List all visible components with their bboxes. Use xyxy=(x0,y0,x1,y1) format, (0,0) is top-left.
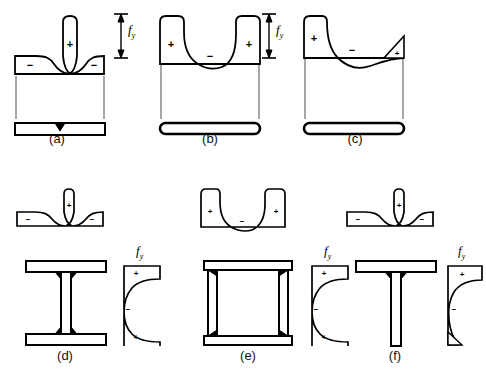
panel-e-caption: (e) xyxy=(223,348,273,363)
panel-b-stress-curve: + + − xyxy=(160,16,260,69)
panel-a-fy-label: fy xyxy=(128,22,135,40)
panel-e-web-sign-plus-bottom: + xyxy=(322,333,327,342)
panel-d-fy-label: fy xyxy=(136,243,143,261)
panel-f-flange-sign-plus: + xyxy=(397,201,402,210)
panel-f-fy-label: fy xyxy=(458,243,465,261)
panel-d-flange-sign-plus: + xyxy=(67,201,72,210)
panel-a-caption: (a) xyxy=(32,131,82,146)
panel-b-sign-plus-left: + xyxy=(168,38,174,50)
panel-a-sign-plus: + xyxy=(67,38,73,50)
panel-b-sign-minus: − xyxy=(207,50,213,62)
panel-d-web-sign-plus-top: + xyxy=(134,269,139,278)
panel-f-stem-stress-curve: + − xyxy=(440,262,486,350)
panel-d-flange-sign-minus-left: − xyxy=(26,215,31,224)
panel-c-sign-minus: − xyxy=(349,44,355,56)
panel-e-fy-label: fy xyxy=(324,243,331,261)
panel-b-fy-label: fy xyxy=(276,22,283,40)
panel-c-graphic: + − + xyxy=(296,6,431,151)
panel-a-sign-minus-left: − xyxy=(27,59,33,71)
panel-e-flange-sign-plus-right: + xyxy=(274,207,279,216)
panel-f-stem-sign-plus: + xyxy=(460,270,465,279)
panel-d-web-stress-curve: + − + xyxy=(116,262,166,346)
panel-d-flange-stress-curve: + − − xyxy=(12,186,108,234)
panel-e-web-sign-minus: − xyxy=(314,305,319,314)
panel-e-web-stress-curve: + − + xyxy=(304,262,354,346)
panel-d-web-sign-plus-bottom: + xyxy=(134,333,139,342)
panel-d-flange-sign-minus-right: − xyxy=(90,215,95,224)
panel-f-flange-sign-minus-left: − xyxy=(356,215,361,224)
panel-f-section-tee xyxy=(352,258,440,350)
panel-e-section-box xyxy=(200,258,296,350)
panel-e-flange-sign-plus-left: + xyxy=(208,207,213,216)
panel-c-caption: (c) xyxy=(325,131,385,146)
panel-d-web-sign-minus: − xyxy=(126,305,131,314)
panel-a-sign-minus-right: − xyxy=(91,59,97,71)
panel-c-sign-plus-right: + xyxy=(395,49,400,58)
panel-c-sign-plus-left: + xyxy=(311,32,317,44)
panel-a-stress-curve: + − − xyxy=(15,16,104,74)
panel-f-flange-sign-minus-right: − xyxy=(420,215,425,224)
panel-b-caption: (b) xyxy=(180,131,240,146)
panel-b-sign-plus-right: + xyxy=(246,38,252,50)
panel-e-web-sign-plus-top: + xyxy=(322,269,327,278)
panel-c-stress-curve: + − + xyxy=(304,16,404,68)
panel-d-section-i-beam xyxy=(22,258,110,348)
panel-d-caption: (d) xyxy=(40,348,90,363)
panel-f-stem-tip-spike xyxy=(448,332,462,345)
panel-e-flange-stress-curve: + + − xyxy=(195,186,299,236)
panel-f-caption: (f) xyxy=(370,348,420,363)
panel-f-flange-stress-curve: + − − xyxy=(342,186,438,234)
residual-stress-figure: + − − (a) fy + + − xyxy=(0,0,486,371)
panel-f-stem-sign-minus: − xyxy=(452,305,457,314)
panel-e-flange-sign-minus: − xyxy=(240,217,245,226)
